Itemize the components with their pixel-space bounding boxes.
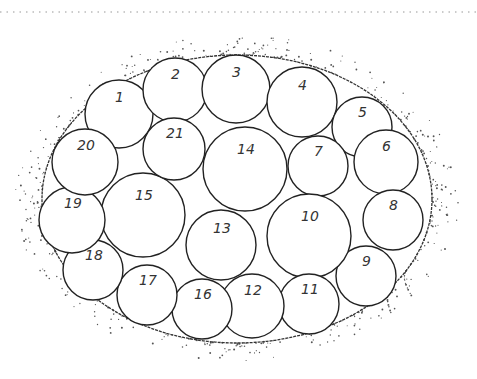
circle-10: 10: [267, 194, 351, 278]
circle-14: 14: [203, 127, 287, 211]
circle-20: 20: [52, 129, 118, 195]
circle-11: 11: [279, 274, 339, 334]
circle-label: 21: [166, 125, 184, 141]
circle-shape: [203, 127, 287, 211]
circle-8: 8: [363, 190, 423, 250]
circle-label: 20: [77, 137, 95, 153]
circle-label: 13: [213, 220, 231, 236]
circle-shape: [101, 173, 185, 257]
circle-label: 3: [232, 64, 241, 80]
circle-label: 2: [171, 66, 180, 82]
circle-label: 7: [314, 143, 323, 159]
circle-label: 9: [362, 253, 371, 269]
circle-label: 10: [301, 208, 319, 224]
circle-label: 17: [139, 272, 157, 288]
circle-21: 21: [143, 118, 205, 180]
circle-13: 13: [186, 210, 256, 280]
circle-3: 3: [202, 55, 270, 123]
circle-4: 4: [267, 67, 337, 137]
circle-15: 15: [101, 173, 185, 257]
circle-label: 4: [298, 77, 307, 93]
circle-16: 16: [172, 279, 232, 339]
circle-shape: [267, 194, 351, 278]
circle-label: 15: [135, 187, 153, 203]
circle-label: 5: [358, 104, 367, 120]
circle-6: 6: [354, 130, 418, 194]
circle-label: 14: [237, 141, 255, 157]
circle-label: 1: [115, 89, 124, 105]
circle-2: 2: [143, 58, 207, 122]
circle-label: 12: [244, 282, 262, 298]
circle-label: 8: [389, 197, 398, 213]
circle-7: 7: [288, 136, 348, 196]
circle-label: 6: [382, 138, 391, 154]
circle-label: 16: [194, 286, 212, 302]
circle-19: 19: [39, 187, 105, 253]
circle-label: 19: [64, 195, 82, 211]
circles-group: 123456789101112131415161718192021: [39, 55, 423, 339]
circle-17: 17: [117, 265, 177, 325]
circle-packing-diagram: 123456789101112131415161718192021: [0, 0, 477, 379]
circle-label: 11: [301, 281, 319, 297]
